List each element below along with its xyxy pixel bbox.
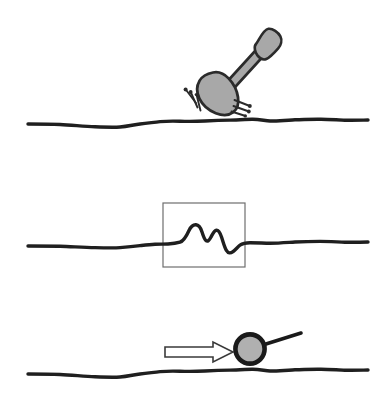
figure-canvas <box>0 0 392 412</box>
soil-dot-left-1 <box>184 87 188 91</box>
soil-dot-right-1 <box>248 104 252 108</box>
soil-dot-right-3 <box>244 114 247 117</box>
figure-root <box>0 0 392 412</box>
soil-dot-left-2 <box>189 90 193 94</box>
soil-dot-right-2 <box>247 110 251 114</box>
soil-dot-left-3 <box>195 93 198 96</box>
